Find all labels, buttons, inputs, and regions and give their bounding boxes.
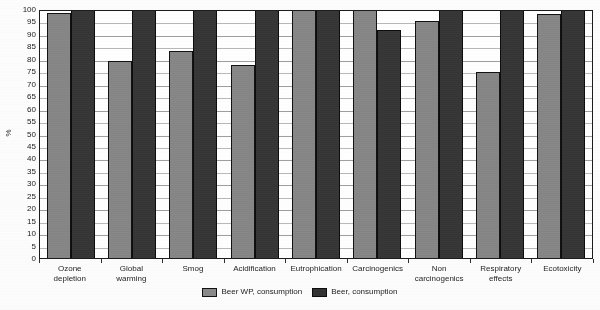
bar-group — [347, 11, 408, 258]
y-axis-tick-label: 20 — [12, 205, 36, 213]
bar-group — [40, 11, 101, 258]
y-axis-tick-label: 100 — [12, 6, 36, 14]
x-axis-category-label: Smog — [162, 264, 224, 284]
bar-group — [101, 11, 162, 258]
bar-group — [408, 11, 469, 258]
bar[interactable] — [292, 10, 316, 258]
y-axis-tick-label: 90 — [12, 31, 36, 39]
bar-group — [469, 11, 530, 258]
x-axis-tick — [470, 259, 471, 263]
y-axis-tick-label: 0 — [12, 255, 36, 263]
y-axis-tick-label: 35 — [12, 168, 36, 176]
bar[interactable] — [316, 10, 340, 258]
bar-group — [163, 11, 224, 258]
y-axis-tick-label: 25 — [12, 193, 36, 201]
bar[interactable] — [231, 65, 255, 258]
y-axis-tick-label: 50 — [12, 131, 36, 139]
y-axis-tick-label: 30 — [12, 180, 36, 188]
bar-group — [285, 11, 346, 258]
chart-legend: Beer WP, consumptionBeer, consumption — [0, 287, 600, 297]
x-axis-category-label: Ecotoxicity — [532, 264, 594, 284]
x-axis-tick — [39, 259, 40, 263]
legend-item[interactable]: Beer, consumption — [312, 287, 397, 297]
legend-label: Beer, consumption — [331, 287, 397, 297]
x-axis-tick — [593, 259, 594, 263]
legend-swatch-icon — [312, 288, 327, 297]
bar[interactable] — [71, 10, 95, 258]
y-axis-tick-label: 5 — [12, 243, 36, 251]
x-axis-category-labels: OzonedepletionGlobalwarmingSmogAcidifica… — [39, 264, 593, 284]
x-axis-tick — [285, 259, 286, 263]
y-axis-tick-label: 45 — [12, 143, 36, 151]
bar[interactable] — [476, 72, 500, 258]
bar[interactable] — [255, 10, 279, 258]
y-axis-tick-label: 85 — [12, 43, 36, 51]
x-axis-category-label: Eutrophication — [285, 264, 347, 284]
bars-layer — [40, 11, 592, 258]
x-axis-tick — [162, 259, 163, 263]
x-axis-category-label: Ozonedepletion — [39, 264, 101, 284]
legend-swatch-icon — [202, 288, 217, 297]
bar[interactable] — [47, 13, 71, 258]
bar-group — [224, 11, 285, 258]
y-axis-tick-label: 75 — [12, 68, 36, 76]
y-axis-tick-label: 10 — [12, 230, 36, 238]
bar[interactable] — [377, 30, 401, 258]
y-axis-tick-label: 95 — [12, 18, 36, 26]
legend-item[interactable]: Beer WP, consumption — [202, 287, 302, 297]
bar[interactable] — [561, 10, 585, 258]
bar[interactable] — [108, 61, 132, 258]
bar-group — [531, 11, 592, 258]
bar[interactable] — [132, 10, 156, 258]
x-axis-category-label: Acidification — [224, 264, 286, 284]
y-axis-tick-label: 70 — [12, 81, 36, 89]
x-axis-category-label: Carcinogenics — [347, 264, 409, 284]
bar[interactable] — [169, 51, 193, 258]
bar[interactable] — [500, 10, 524, 258]
bar[interactable] — [353, 10, 377, 258]
y-axis-tick-labels: 1009590858075706560555045403530252015105… — [12, 6, 36, 258]
x-axis-tick — [347, 259, 348, 263]
bar[interactable] — [439, 10, 463, 258]
y-axis-tick-label: 80 — [12, 56, 36, 64]
x-axis-tick — [408, 259, 409, 263]
plot-area — [39, 10, 593, 259]
y-axis-tick-label: 40 — [12, 155, 36, 163]
x-axis-category-label: Noncarcinogenics — [408, 264, 470, 284]
y-axis-tick-label: 55 — [12, 118, 36, 126]
x-axis-category-label: Globalwarming — [101, 264, 163, 284]
bar[interactable] — [193, 10, 217, 258]
bar[interactable] — [415, 21, 439, 258]
y-axis-tick-label: 65 — [12, 93, 36, 101]
x-axis-tick — [224, 259, 225, 263]
bar-chart: % 10095908580757065605550454035302520151… — [0, 0, 600, 310]
y-axis-tick-label: 15 — [12, 218, 36, 226]
bar[interactable] — [537, 14, 561, 258]
legend-label: Beer WP, consumption — [221, 287, 302, 297]
y-axis-tick-label: 60 — [12, 106, 36, 114]
x-axis-tick — [531, 259, 532, 263]
x-axis-category-label: Respiratoryeffects — [470, 264, 532, 284]
x-axis-tick — [101, 259, 102, 263]
